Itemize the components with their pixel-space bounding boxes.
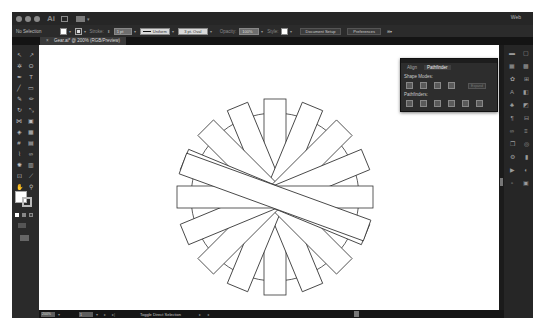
type-tool-icon[interactable]: T [27,73,35,81]
blend-tool-icon[interactable]: ∞ [27,150,35,158]
next-artboard-icon[interactable]: ▸ [104,312,106,317]
outline-button[interactable] [462,100,469,107]
graphic-style-swatch[interactable] [281,28,288,35]
merge-button[interactable] [434,100,441,107]
transform-panel-icon[interactable]: ⊞ [521,75,531,84]
slice-tool-icon[interactable]: ⟋ [27,172,35,180]
tab-align[interactable]: Align [404,65,420,70]
divide-button[interactable] [406,100,413,107]
document-icon[interactable] [61,16,68,22]
fill-dropdown[interactable]: ▾ [69,29,71,34]
links-panel-icon[interactable]: ⚙ [507,153,517,162]
artboard-dropdown[interactable]: ▾ [96,312,98,317]
horizontal-scroll-thumb[interactable] [354,311,359,317]
paintbrush-tool-icon[interactable]: ✎ [15,95,23,103]
expand-button[interactable]: Expand [468,83,486,89]
align-panel-icon[interactable]: ⊟ [521,114,531,123]
stroke-weight-field[interactable]: 1 pt [114,28,132,35]
swatches-panel-icon[interactable]: ▩ [521,62,531,71]
document-tab[interactable]: × Gear.ai* @ 200% (RGB/Preview) [40,37,126,45]
unite-button[interactable] [406,82,413,89]
gradient-tool-icon[interactable]: ▤ [27,139,35,147]
stroke-panel-icon[interactable]: ≡ [521,127,531,136]
zoom-level-field[interactable]: 200% [41,312,55,317]
opacity-label[interactable]: Opacity: [220,29,237,34]
direct-selection-tool-icon[interactable]: ↗ [27,51,35,59]
gradient-mode-icon[interactable] [22,213,26,217]
profile-dropdown[interactable]: ▾ [172,29,174,34]
color-guide-icon[interactable]: ▦ [507,62,517,71]
transparency-panel-icon[interactable]: ◐ [521,166,531,175]
scale-tool-icon[interactable]: ⤡ [27,106,35,114]
fill-swatch[interactable] [60,28,67,35]
artboard-number-field[interactable]: 1 [79,312,93,317]
zoom-dropdown[interactable]: ▾ [58,312,60,317]
brush-definition[interactable]: 3 pt. Oval [178,28,208,35]
close-icon[interactable]: × [46,38,49,43]
eyedropper-tool-icon[interactable]: ⌇ [15,150,23,158]
color-panel-icon[interactable]: ▬ [507,49,517,58]
stroke-stepper[interactable]: ⬍ [107,29,110,34]
pencil-tool-icon[interactable]: ✏ [27,95,35,103]
trim-button[interactable] [420,100,427,107]
layers-panel-icon[interactable]: ❐ [507,140,517,149]
hand-tool-icon[interactable]: ✋ [15,183,23,191]
column-graph-tool-icon[interactable]: ▥ [27,161,35,169]
actions-panel-icon[interactable]: ▶ [507,166,517,175]
line-tool-icon[interactable]: ╱ [15,84,23,92]
stroke-dropdown[interactable]: ▾ [84,29,86,34]
symbols-panel-icon[interactable]: ♣ [507,101,517,110]
variable-width-profile[interactable]: Uniform [140,28,170,35]
navigator-panel-icon[interactable]: ▫ [507,179,517,188]
symbol-sprayer-tool-icon[interactable]: ✺ [15,161,23,169]
exclude-button[interactable] [448,82,455,89]
stroke-swatch[interactable] [75,28,82,35]
tab-pathfinder[interactable]: Pathfinder [424,65,451,70]
pathfinder-panel-icon[interactable]: ◧ [521,88,531,97]
artboard-tool-icon[interactable]: ⊡ [15,172,23,180]
zoom-tool-icon[interactable]: ⚲ [27,183,35,191]
stroke-color-box[interactable] [22,197,32,207]
brush-icon[interactable] [34,16,40,22]
default-colors-icon[interactable] [15,213,19,217]
paragraph-panel-icon[interactable]: ¶ [507,114,517,123]
character-panel-icon[interactable]: A [507,88,517,97]
magic-wand-tool-icon[interactable]: ✲ [15,62,23,70]
minus-back-button[interactable] [476,100,483,107]
none-mode-icon[interactable] [29,213,33,217]
opacity-dropdown[interactable]: ▾ [261,29,263,34]
perspective-grid-tool-icon[interactable]: ▦ [27,128,35,136]
style-dropdown[interactable]: ▾ [290,29,292,34]
opentype-panel-icon[interactable]: ∞ [507,127,517,136]
status-dropdown[interactable]: ▸ [199,312,201,317]
document-setup-button[interactable]: Document Setup [300,28,342,35]
draw-mode-icon[interactable] [18,223,26,228]
width-tool-icon[interactable]: ⋈ [15,117,23,125]
last-artboard-icon[interactable]: ▸| [112,312,115,317]
arrange-icon[interactable]: ⊞▾ [387,29,392,34]
minus-front-button[interactable] [420,82,427,89]
gradient-panel-icon[interactable]: ▮ [521,153,531,162]
vertical-scroll-thumb[interactable] [500,178,503,186]
bridge-icon[interactable] [16,16,22,22]
brushes-panel-icon[interactable]: ✿ [507,75,517,84]
arrange-documents-icon[interactable] [76,16,85,22]
intersect-button[interactable] [434,82,441,89]
appearance-panel-icon[interactable]: ◎ [521,140,531,149]
preferences-button[interactable]: Preferences [347,28,381,35]
artboards-panel-icon[interactable]: ▢ [521,49,531,58]
pen-tool-icon[interactable]: ✒ [15,73,23,81]
info-panel-icon[interactable]: ▣ [521,179,531,188]
stock-icon[interactable] [25,16,31,22]
status-text[interactable]: Toggle Direct Selection [140,312,181,317]
brush-dropdown[interactable]: ▾ [210,29,212,34]
graphic-styles-icon[interactable]: ◩ [521,101,531,110]
rotate-tool-icon[interactable]: ↻ [15,106,23,114]
shape-builder-tool-icon[interactable]: ◈ [15,128,23,136]
lasso-tool-icon[interactable]: ʘ [27,62,35,70]
crop-button[interactable] [448,100,455,107]
screen-mode-icon[interactable] [20,235,29,241]
chevron-down-icon[interactable]: ▾ [87,16,90,22]
selection-tool-icon[interactable]: ↖ [15,51,23,59]
free-transform-tool-icon[interactable]: ▣ [27,117,35,125]
